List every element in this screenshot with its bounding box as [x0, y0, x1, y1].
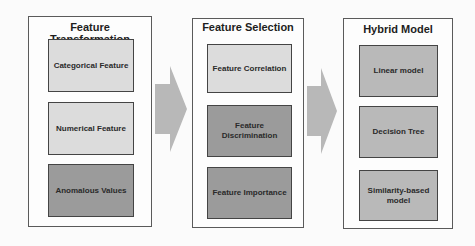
panel-feature-transformation: Feature Transformation Categorical Featu…: [28, 16, 152, 227]
panel-hybrid-model: Hybrid Model Linear model Decision Tree …: [343, 18, 453, 229]
panel-title: Hybrid Model: [344, 23, 452, 35]
box-feature-importance: Feature Importance: [207, 167, 292, 219]
box-numerical-feature: Numerical Feature: [48, 102, 134, 155]
box-feature-discrimination: Feature Discrimination: [207, 105, 292, 157]
box-categorical-feature: Categorical Feature: [48, 39, 134, 92]
panel-title: Feature Selection: [193, 21, 303, 33]
box-linear-model: Linear model: [359, 45, 438, 97]
arrow-right-icon: [306, 66, 338, 156]
arrow-right-icon: [154, 64, 188, 154]
box-anomalous-values: Anomalous Values: [48, 164, 134, 217]
box-feature-correlation: Feature Correlation: [207, 44, 292, 93]
panel-feature-selection: Feature Selection Feature Correlation Fe…: [192, 18, 304, 228]
box-similarity-based-model: Similarity-based model: [359, 170, 438, 221]
box-decision-tree: Decision Tree: [359, 106, 438, 158]
